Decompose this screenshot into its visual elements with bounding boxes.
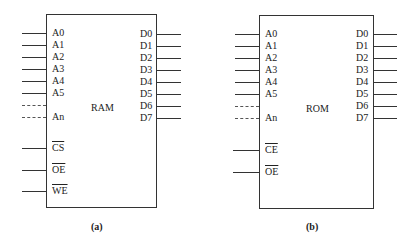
pin-line-a5	[235, 94, 259, 95]
pin-line-an	[235, 118, 259, 119]
pin-line-d2	[374, 58, 397, 59]
pin-line-ce	[233, 150, 259, 151]
pin-label-oe: OE	[52, 165, 65, 175]
ram-chip-label: RAM	[91, 103, 114, 113]
pin-label-a4: A4	[52, 76, 64, 86]
caption-b: (b)	[306, 221, 318, 232]
pin-line-a4	[22, 81, 46, 82]
pin-line-a3	[22, 69, 46, 70]
pin-line-a0	[22, 33, 46, 34]
pin-line-d3	[157, 70, 181, 71]
pin-label-d1: D1	[140, 41, 152, 51]
pin-line-oe	[233, 172, 259, 173]
pin-label-d3: D3	[140, 65, 152, 75]
pin-line-d0	[374, 34, 397, 35]
pin-label-d5: D5	[356, 89, 368, 99]
pin-line-a1	[22, 45, 46, 46]
caption-a: (a)	[91, 221, 103, 232]
pin-label-a0: A0	[52, 28, 64, 38]
pin-line-ellipsis	[22, 105, 46, 106]
pin-label-d4: D4	[356, 77, 368, 87]
pin-label-oe: OE	[265, 167, 278, 177]
pin-label-a1: A1	[265, 41, 277, 51]
pin-label-d2: D2	[140, 53, 152, 63]
pin-label-ce: CE	[265, 145, 278, 155]
pin-label-an: An	[265, 113, 277, 123]
pin-label-we: WE	[52, 186, 68, 196]
pin-line-d0	[157, 34, 181, 35]
pin-label-d0: D0	[356, 29, 368, 39]
pin-line-oe	[22, 170, 46, 171]
pin-line-d7	[157, 118, 181, 119]
pin-label-d2: D2	[356, 53, 368, 63]
pin-label-a0: A0	[265, 29, 277, 39]
pin-line-cs	[22, 148, 46, 149]
pin-label-d1: D1	[356, 41, 368, 51]
pin-line-a3	[235, 70, 259, 71]
pin-label-d4: D4	[140, 77, 152, 87]
pin-label-d3: D3	[356, 65, 368, 75]
pin-line-d2	[157, 58, 181, 59]
pin-line-d4	[374, 82, 397, 83]
pin-line-a1	[235, 46, 259, 47]
pin-label-a2: A2	[265, 53, 277, 63]
pin-line-a2	[22, 57, 46, 58]
pin-line-d1	[374, 46, 397, 47]
pin-line-d6	[374, 106, 397, 107]
pin-label-a1: A1	[52, 40, 64, 50]
pin-label-d7: D7	[140, 113, 152, 123]
pin-label-d0: D0	[140, 29, 152, 39]
pin-label-a5: A5	[52, 88, 64, 98]
pin-label-d6: D6	[140, 101, 152, 111]
pin-line-a5	[22, 93, 46, 94]
pin-label-a5: A5	[265, 89, 277, 99]
pin-line-we	[22, 191, 46, 192]
pin-line-d5	[157, 94, 181, 95]
pin-line-a4	[235, 82, 259, 83]
pin-label-cs: CS	[52, 143, 64, 153]
pin-label-d5: D5	[140, 89, 152, 99]
pin-line-ellipsis	[235, 106, 259, 107]
pin-label-d7: D7	[356, 113, 368, 123]
pin-label-a3: A3	[52, 64, 64, 74]
pin-line-d5	[374, 94, 397, 95]
pin-line-an	[22, 117, 46, 118]
pin-line-d4	[157, 82, 181, 83]
pin-line-d6	[157, 106, 181, 107]
pin-label-a3: A3	[265, 65, 277, 75]
pin-label-d6: D6	[356, 101, 368, 111]
pin-label-a4: A4	[265, 77, 277, 87]
pin-line-d3	[374, 70, 397, 71]
pin-line-d7	[374, 118, 397, 119]
pin-label-a2: A2	[52, 52, 64, 62]
rom-chip-label: ROM	[306, 104, 329, 114]
pin-line-a2	[235, 58, 259, 59]
pin-line-d1	[157, 46, 181, 47]
pin-line-a0	[235, 34, 259, 35]
pin-label-an: An	[52, 112, 64, 122]
